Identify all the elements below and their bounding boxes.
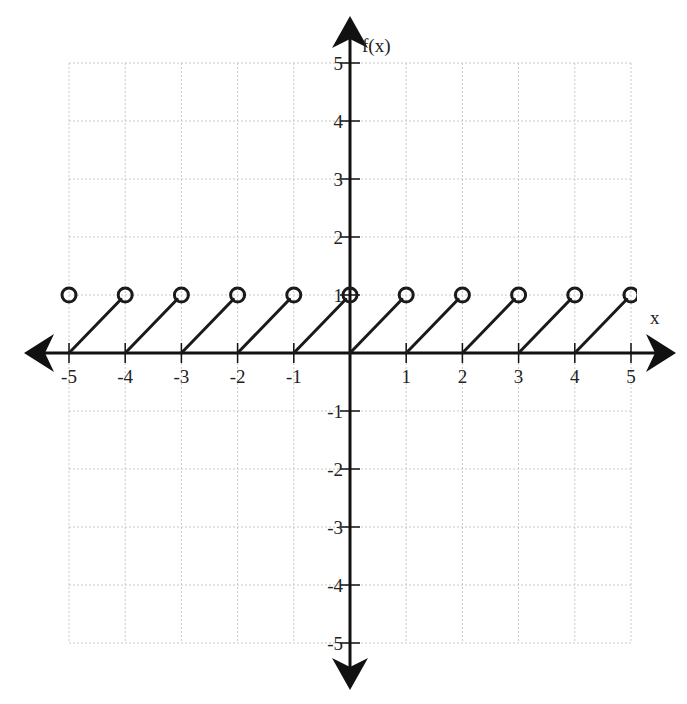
y-tick-label: -4 [327,575,343,596]
x-tick-label: -1 [286,366,302,387]
y-axis-label: f(x) [362,35,390,57]
y-tick-label: 2 [334,227,344,248]
x-tick-label: 5 [626,366,636,387]
x-tick-label: 4 [570,366,580,387]
x-tick-label: -2 [230,366,246,387]
sawtooth-segment [462,299,514,353]
y-tick-label: -1 [327,401,343,422]
sawtooth-segment [238,299,290,353]
y-tick-label: 3 [334,169,344,190]
sawtooth-segment [181,299,233,353]
x-axis-label: x [650,307,660,328]
sawtooth-segment [406,299,458,353]
y-tick-label: 5 [334,53,344,74]
sawtooth-segment [519,299,571,353]
sawtooth-segment [575,299,627,353]
sawtooth-segment [294,299,346,353]
x-tick-label: 3 [514,366,524,387]
sawtooth-segment [350,299,402,353]
sawtooth-segment [125,299,177,353]
sawtooth-segment [69,299,121,353]
x-tick-label: -4 [117,366,133,387]
sawtooth-plot: -5-4-3-2-112345-5-4-3-2-112345 x f(x) [0,0,687,704]
y-tick-label: -2 [327,459,343,480]
x-tick-label: 2 [458,366,468,387]
x-tick-label: 1 [401,366,411,387]
y-tick-label: 4 [334,111,344,132]
y-tick-label: -3 [327,517,343,538]
x-tick-label: -3 [173,366,189,387]
x-tick-label: -5 [61,366,77,387]
y-tick-label: -5 [327,633,343,654]
